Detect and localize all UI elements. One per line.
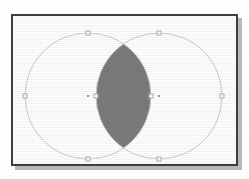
handle-north-left[interactable] (86, 31, 90, 35)
handle-south-left[interactable] (86, 157, 90, 161)
center-dot-right[interactable] (158, 95, 160, 97)
canvas-surface[interactable] (13, 16, 236, 164)
handle-south-right[interactable] (157, 157, 161, 161)
center-dot-left[interactable] (87, 95, 89, 97)
handle-north-right[interactable] (157, 31, 161, 35)
handle-west-left[interactable] (23, 94, 27, 98)
handle-east-left[interactable] (149, 94, 153, 98)
canvas-frame (11, 14, 238, 166)
handle-east-right[interactable] (220, 94, 224, 98)
screenshot-root (0, 0, 249, 179)
handle-west-right[interactable] (94, 94, 98, 98)
venn-diagram[interactable] (13, 16, 236, 164)
